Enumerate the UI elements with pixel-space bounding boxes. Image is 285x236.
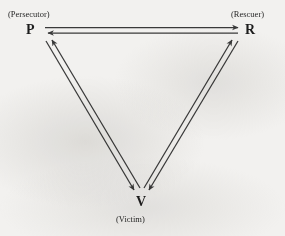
edge-victim-to-rescuer — [144, 40, 232, 188]
role-label-rescuer: (Rescuer) — [231, 10, 264, 19]
drama-triangle-diagram: (Persecutor) P (Rescuer) R V (Victim) — [0, 0, 285, 236]
edge-persecutor-to-victim — [46, 41, 134, 190]
role-label-victim: (Victim) — [116, 215, 145, 224]
role-label-persecutor: (Persecutor) — [8, 10, 50, 19]
vertex-letter-persecutor: P — [26, 23, 35, 37]
vertex-letter-victim: V — [136, 195, 146, 209]
edge-victim-to-persecutor — [52, 40, 140, 188]
edge-rescuer-to-victim — [149, 41, 238, 190]
vertex-letter-rescuer: R — [245, 23, 255, 37]
